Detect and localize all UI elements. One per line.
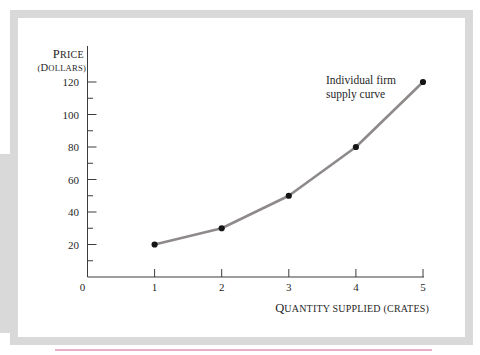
curve-annotation-line2: supply curve: [326, 88, 385, 101]
origin-label: 0: [80, 281, 86, 293]
y-axis-title: PRICE: [53, 47, 84, 61]
textbook-figure-page: 20406080100120123450PRICE(DOLLARS)QUANTI…: [0, 0, 480, 355]
x-tick-label: 1: [152, 281, 158, 293]
y-axis-subtitle: (DOLLARS): [37, 62, 86, 73]
x-tick-label: 2: [219, 281, 225, 293]
x-tick-label: 5: [420, 281, 426, 293]
y-tick-label: 80: [68, 141, 80, 153]
y-tick-label: 60: [68, 174, 80, 186]
bottom-accent-line: [55, 349, 432, 351]
data-point: [353, 144, 359, 150]
y-tick-label: 100: [63, 109, 80, 121]
supply-curve-chart: 20406080100120123450PRICE(DOLLARS)QUANTI…: [0, 0, 480, 355]
y-tick-label: 120: [63, 76, 80, 88]
data-point: [420, 79, 426, 85]
curve-annotation-line1: Individual firm: [326, 74, 396, 86]
x-tick-label: 4: [353, 281, 359, 293]
supply-curve-line: [155, 82, 423, 245]
y-tick-label: 40: [68, 206, 80, 218]
x-axis-title: QUANTITY SUPPLIED (CRATES): [275, 301, 429, 315]
x-tick-label: 3: [286, 281, 292, 293]
y-tick-label: 20: [68, 239, 80, 251]
data-point: [286, 193, 292, 199]
data-point: [219, 225, 225, 231]
data-point: [152, 241, 158, 247]
